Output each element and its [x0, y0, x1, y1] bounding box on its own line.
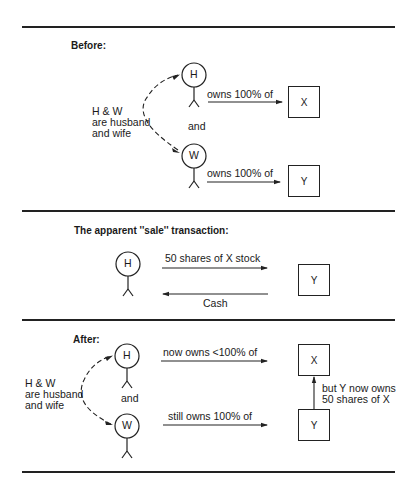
label-shares-transfer: 50 shares of X stock [165, 253, 260, 264]
label-w-owns-y-after: still owns 100% of [168, 411, 252, 422]
label-h-owns-x-after: now owns <100% of [163, 347, 257, 358]
company-box-y-sale: Y [298, 264, 330, 296]
company-box-x-after: X [298, 344, 330, 376]
person-w-label-after: W [122, 420, 132, 431]
section-title-before: Before: [71, 40, 106, 51]
section-title-after: After: [73, 334, 100, 345]
relationship-note-before: H & W are husband and wife [92, 106, 150, 139]
label-w-owns-y-before: owns 100% of [207, 168, 273, 179]
company-box-y-after: Y [298, 409, 330, 441]
dashed-relationship-arc-after [81, 356, 111, 424]
company-box-x-before: X [288, 86, 320, 118]
person-h-label-after: H [123, 350, 131, 361]
company-label: Y [311, 420, 318, 431]
company-label: X [301, 97, 308, 108]
section-title-sale: The apparent ''sale'' transaction: [74, 225, 229, 236]
company-label: Y [301, 176, 308, 187]
person-h-label-sale: H [124, 258, 132, 269]
company-box-y-before: Y [288, 165, 320, 197]
connector-and-after: and [121, 393, 139, 404]
company-label: Y [311, 275, 318, 286]
label-cash-transfer: Cash [203, 298, 228, 309]
person-w-label-before: W [189, 150, 199, 161]
company-label: X [311, 355, 318, 366]
relationship-note-after: H & W are husband and wife [25, 378, 83, 411]
label-y-owns-x-after: but Y now owns 50 shares of X [322, 383, 396, 405]
connector-and-before: and [188, 121, 206, 132]
person-h-label-before: H [190, 69, 198, 80]
label-h-owns-x-before: owns 100% of [207, 89, 273, 100]
